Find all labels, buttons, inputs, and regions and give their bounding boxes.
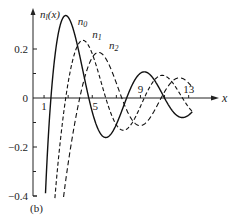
y-tick-label: −0.4 [8,190,28,202]
bessel-chart: 0.20−0.2−0.415913nl(x)x(b)n0n1n2 [0,0,231,222]
curve-n1 [55,40,192,198]
y-axis-arrow-icon [31,8,36,15]
panel-label: (b) [30,202,43,215]
x-tick-label: 5 [93,100,99,112]
x-tick-label: 9 [138,83,144,95]
curve-n0 [46,16,193,194]
x-tick-label: 13 [183,83,195,95]
x-axis-arrow-icon [211,96,219,101]
y-tick-label: −0.2 [8,141,28,153]
y-tick-label: 0 [23,92,29,104]
x-tick-label: 1 [41,100,47,112]
curves [46,16,193,199]
y-tick-label: 0.2 [14,43,28,55]
series-label-n1: n1 [92,28,102,42]
series-label-n0: n0 [78,15,88,29]
x-axis-label: x [221,91,228,105]
y-axis-label: nl(x) [40,8,60,22]
series-label-n2: n2 [109,39,119,53]
labels: 0.20−0.2−0.415913nl(x)x(b)n0n1n2 [8,8,228,215]
